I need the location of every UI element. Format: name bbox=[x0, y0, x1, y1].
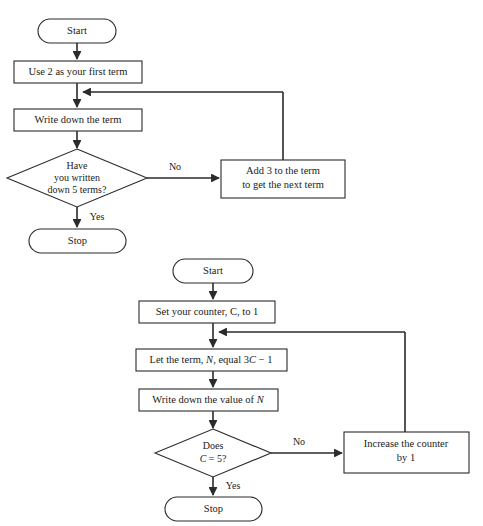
flowchart-bottom: Start Set your counter, C, to 1 Let the … bbox=[136, 259, 469, 521]
bottom-decision-line1: Does bbox=[203, 440, 224, 451]
write-value-prefix: Write down the value of bbox=[152, 394, 256, 405]
top-edge-label-no: No bbox=[169, 161, 181, 172]
top-node-decision[interactable]: Have you written down 5 terms? bbox=[7, 149, 147, 207]
top-add-three-line2: to get the next term bbox=[242, 179, 324, 190]
top-start-label: Start bbox=[67, 25, 87, 36]
let-term-suffix: − 1 bbox=[256, 354, 272, 365]
bottom-edge-label-no: No bbox=[293, 436, 305, 447]
top-node-write-term[interactable]: Write down the term bbox=[14, 109, 142, 131]
top-node-stop[interactable]: Stop bbox=[29, 229, 126, 253]
bottom-node-set-counter[interactable]: Set your counter, C, to 1 bbox=[139, 301, 275, 323]
let-term-prefix: Let the term, bbox=[150, 354, 207, 365]
top-stop-label: Stop bbox=[68, 235, 87, 246]
bottom-increase-line2: by 1 bbox=[397, 452, 415, 463]
top-decision-line1: Have bbox=[66, 160, 88, 171]
bottom-edge-label-yes: Yes bbox=[226, 480, 241, 491]
top-first-term-label: Use 2 as your first term bbox=[29, 66, 128, 77]
decision-line2-rest: = 5? bbox=[206, 453, 227, 464]
top-edge-label-yes: Yes bbox=[90, 211, 105, 222]
top-node-first-term[interactable]: Use 2 as your first term bbox=[14, 61, 142, 83]
top-node-start[interactable]: Start bbox=[38, 19, 116, 43]
top-write-term-label: Write down the term bbox=[35, 114, 122, 125]
bottom-node-stop[interactable]: Stop bbox=[165, 497, 262, 521]
bottom-let-term-label: Let the term, N, equal 3C − 1 bbox=[150, 354, 273, 365]
top-node-add-three[interactable]: Add 3 to the term to get the next term bbox=[221, 160, 345, 198]
bottom-increase-line1: Increase the counter bbox=[364, 438, 449, 449]
write-value-var-n: N bbox=[256, 394, 265, 405]
flowchart-top: Start Use 2 as your first term Write dow… bbox=[7, 19, 345, 253]
bottom-node-decision[interactable]: Does C = 5? bbox=[155, 429, 271, 477]
bottom-node-start[interactable]: Start bbox=[173, 259, 253, 283]
top-decision-line3: down 5 terms? bbox=[48, 184, 107, 195]
bottom-node-let-term[interactable]: Let the term, N, equal 3C − 1 bbox=[136, 349, 287, 371]
top-decision-line2: you written bbox=[54, 172, 100, 183]
bottom-start-label: Start bbox=[203, 265, 223, 276]
bottom-set-counter-label: Set your counter, C, to 1 bbox=[156, 306, 259, 317]
bottom-node-write-value[interactable]: Write down the value of N bbox=[139, 389, 278, 411]
top-add-three-line1: Add 3 to the term bbox=[246, 165, 320, 176]
bottom-write-value-label: Write down the value of N bbox=[152, 394, 264, 405]
bottom-stop-label: Stop bbox=[204, 503, 223, 514]
bottom-node-increase[interactable]: Increase the counter by 1 bbox=[344, 432, 469, 473]
let-term-middle: , equal 3 bbox=[213, 354, 249, 365]
bottom-decision-line2: C = 5? bbox=[200, 453, 227, 464]
flowchart-canvas: Start Use 2 as your first term Write dow… bbox=[0, 0, 483, 526]
